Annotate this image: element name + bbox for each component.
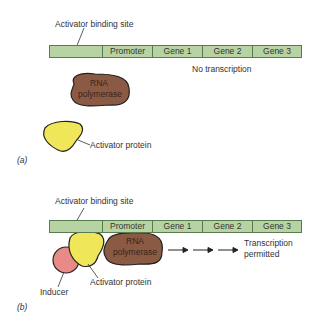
dna-segment-gene-2: Gene 2 bbox=[203, 46, 253, 57]
activator-label-b: Activator protein bbox=[90, 277, 151, 287]
activator-leader-b bbox=[88, 264, 98, 278]
polymerase-label-b-2: polymerase bbox=[113, 247, 157, 257]
dna-segment-gene-1: Gene 1 bbox=[153, 221, 203, 232]
status-permitted: permitted bbox=[244, 249, 279, 259]
dna-segment-promoter: Promoter bbox=[103, 221, 153, 232]
dna-strand-a: Promoter Gene 1 Gene 2 Gene 3 bbox=[49, 45, 302, 58]
dna-segment-gene-3: Gene 3 bbox=[253, 46, 301, 57]
status-transcription: Transcription bbox=[244, 238, 293, 248]
dna-segment-gene-3: Gene 3 bbox=[253, 221, 301, 232]
dna-segment-binding-site bbox=[50, 221, 103, 232]
polymerase-label-b-1: RNA bbox=[126, 236, 144, 246]
activator-protein-a bbox=[44, 121, 83, 151]
inducer-leader bbox=[58, 272, 64, 287]
dna-segment-promoter: Promoter bbox=[103, 46, 153, 57]
activator-leader-a bbox=[78, 140, 90, 145]
dna-segment-gene-1: Gene 1 bbox=[153, 46, 203, 57]
inducer-label: Inducer bbox=[40, 287, 68, 297]
dna-strand-b: Promoter Gene 1 Gene 2 Gene 3 bbox=[49, 220, 302, 233]
binding-site-label-b: Activator binding site bbox=[55, 196, 133, 206]
panel-label-a: (a) bbox=[17, 155, 27, 165]
status-no-transcription: No transcription bbox=[192, 64, 252, 74]
panel-label-b: (b) bbox=[17, 302, 27, 312]
binding-site-label-a: Activator binding site bbox=[55, 19, 133, 29]
dna-segment-binding-site bbox=[50, 46, 103, 57]
activator-label-a: Activator protein bbox=[90, 140, 151, 150]
transcription-arrows bbox=[168, 248, 238, 253]
polymerase-label-a-1: RNA bbox=[90, 78, 108, 88]
polymerase-label-a-2: polymerase bbox=[78, 89, 122, 99]
dna-segment-gene-2: Gene 2 bbox=[203, 221, 253, 232]
